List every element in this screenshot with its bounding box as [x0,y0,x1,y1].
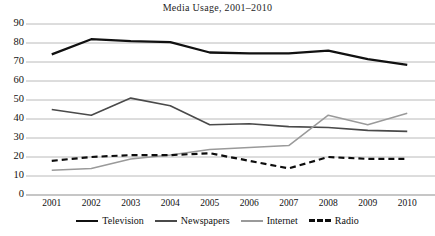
legend-swatch-icon [241,220,263,222]
y-axis-tick-label: 60 [2,74,24,85]
series-lines [52,39,408,170]
x-axis-tick-label: 2001 [32,198,72,208]
y-axis-tick-label: 50 [2,93,24,104]
y-axis-tick-label: 80 [2,36,24,47]
y-axis-tick-label: 70 [2,55,24,66]
media-usage-line-chart: Media Usage, 2001–2010 01020304050607080… [0,0,435,236]
y-axis-tick-label: 30 [2,131,24,142]
y-axis-tick-label: 40 [2,112,24,123]
legend-item-newspapers[interactable]: Newspapers [155,215,230,226]
series-line-newspapers [52,98,408,131]
x-axis-tick-label: 2007 [269,198,309,208]
x-axis-tick-label: 2006 [229,198,269,208]
y-axis-tick-label: 20 [2,150,24,161]
x-axis-tick-label: 2008 [308,198,348,208]
legend-swatch-icon [155,220,177,222]
y-axis-tick-label: 10 [2,169,24,180]
legend-swatch-icon [309,219,331,222]
legend-item-label: Television [102,215,144,226]
x-axis-tick-label: 2005 [190,198,230,208]
series-line-internet [52,113,408,170]
x-axis-tick-label: 2003 [111,198,151,208]
chart-legend: TelevisionNewspapersInternetRadio [0,215,435,226]
series-line-radio [52,153,408,168]
x-axis-tick-label: 2002 [71,198,111,208]
legend-item-label: Internet [267,215,298,226]
legend-swatch-icon [76,220,98,222]
gridlines [26,24,435,195]
x-axis-tick-label: 2010 [387,198,427,208]
legend-item-radio[interactable]: Radio [309,215,359,226]
y-axis-tick-label: 0 [2,188,24,199]
legend-item-television[interactable]: Television [76,215,144,226]
legend-item-internet[interactable]: Internet [241,215,298,226]
x-axis-tick-label: 2009 [348,198,388,208]
legend-item-label: Radio [335,215,359,226]
y-axis-tick-label: 90 [2,17,24,28]
legend-item-label: Newspapers [181,215,230,226]
x-axis-tick-label: 2004 [150,198,190,208]
